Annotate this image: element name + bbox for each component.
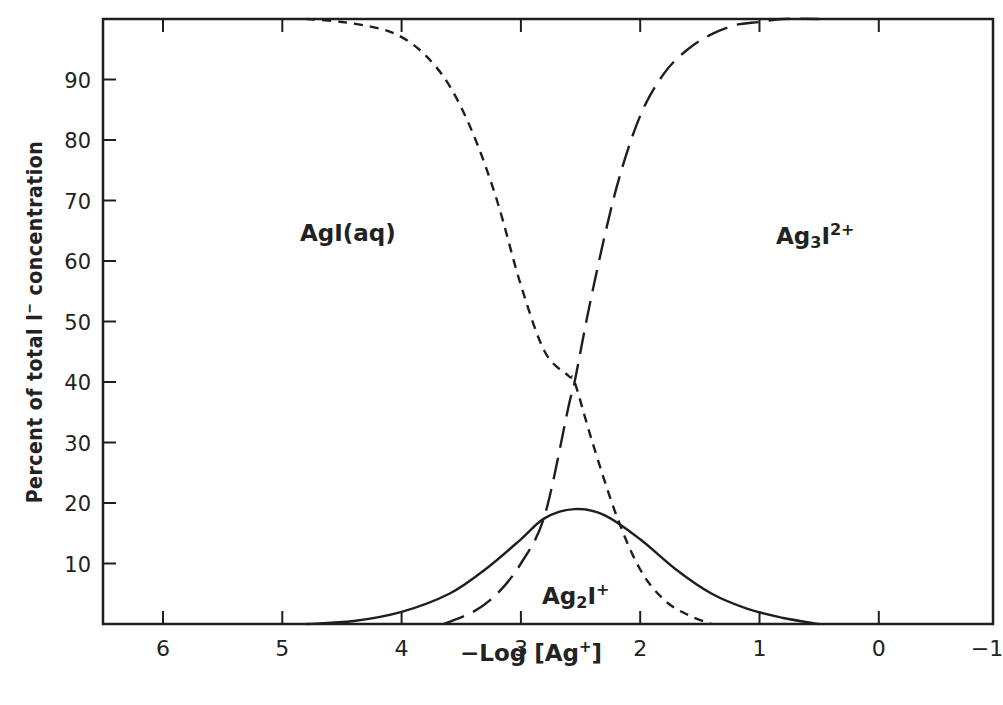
x-tick-label: 2 <box>633 636 647 661</box>
x-tick-label: 1 <box>753 636 767 661</box>
y-tick-label: 70 <box>64 190 91 214</box>
x-tick-label: 0 <box>872 636 886 661</box>
y-tick-label: 90 <box>64 69 91 93</box>
curve-agi-aq <box>306 19 712 624</box>
speciation-chart: 6543210−1102030405060708090 <box>0 0 1003 705</box>
tick-labels: 6543210−1102030405060708090 <box>64 69 1003 662</box>
x-tick-label: 5 <box>275 636 289 661</box>
plot-frame <box>103 19 993 624</box>
x-tick-label: 4 <box>395 636 409 661</box>
y-axis-label: Percent of total I− concentration <box>21 141 47 503</box>
x-tick-label: −1 <box>971 636 1003 661</box>
x-axis-label: −Log [Ag+] <box>460 638 602 666</box>
y-tick-label: 10 <box>64 553 91 577</box>
y-tick-label: 20 <box>64 492 91 516</box>
y-tick-label: 80 <box>64 129 91 153</box>
label-agi-aq: AgI(aq) <box>300 220 396 246</box>
y-tick-label: 50 <box>64 311 91 335</box>
x-tick-label: 6 <box>156 636 170 661</box>
y-tick-label: 40 <box>64 371 91 395</box>
curves <box>306 19 819 624</box>
y-tick-label: 60 <box>64 250 91 274</box>
axis-ticks <box>103 19 879 624</box>
label-ag3i: Ag3I2+ <box>776 220 855 252</box>
label-ag2i: Ag2I+ <box>542 580 609 612</box>
y-tick-label: 30 <box>64 432 91 456</box>
